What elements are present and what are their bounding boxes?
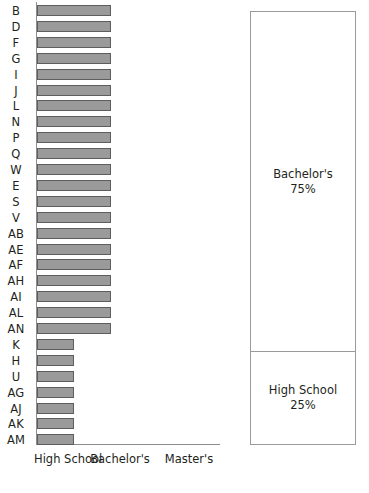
bar-rect	[37, 323, 111, 334]
bar-rect	[37, 21, 111, 32]
summary-segment-high-school: High School 25%	[251, 351, 355, 444]
bar-rect	[37, 116, 111, 127]
bar-row: AM	[0, 432, 240, 448]
summary-segment-bachelors-label: Bachelor's	[273, 167, 333, 182]
bar-row: J	[0, 83, 240, 99]
bar-category-label: L	[0, 98, 32, 114]
bar-rect	[37, 418, 74, 429]
bar-category-label: AH	[0, 273, 32, 289]
bar-rect	[37, 148, 111, 159]
bar-rect	[37, 85, 111, 96]
bar-rect	[37, 371, 74, 382]
bar-row: AN	[0, 321, 240, 337]
bar-rect	[37, 37, 111, 48]
bar-row: H	[0, 353, 240, 369]
bar-category-label: J	[0, 83, 32, 99]
bar-category-label: H	[0, 353, 32, 369]
bar-category-label: I	[0, 67, 32, 83]
bar-category-label: K	[0, 337, 32, 353]
bar-category-label: N	[0, 114, 32, 130]
bar-rect	[37, 164, 111, 175]
bar-row: G	[0, 51, 240, 67]
bar-rect	[37, 5, 111, 16]
bar-row: AE	[0, 242, 240, 258]
chart-figure: BDFGIJLNPQWESVABAEAFAHAIALANKHUAGAJAKAM …	[0, 0, 369, 493]
summary-segment-bachelors-percent: 75%	[290, 182, 316, 197]
bar-row: P	[0, 130, 240, 146]
bar-rect	[37, 100, 111, 111]
bar-category-label: D	[0, 19, 32, 35]
bar-category-label: AJ	[0, 401, 32, 417]
bar-category-label: AI	[0, 289, 32, 305]
bar-rect	[37, 228, 111, 239]
bar-rect	[37, 259, 111, 270]
bar-category-label: F	[0, 35, 32, 51]
bar-category-label: B	[0, 3, 32, 19]
bar-row: AK	[0, 416, 240, 432]
bar-category-label: E	[0, 178, 32, 194]
bar-row: N	[0, 114, 240, 130]
summary-segment-high-school-percent: 25%	[290, 398, 316, 413]
bar-rect	[37, 53, 111, 64]
bar-row: F	[0, 35, 240, 51]
bar-row: D	[0, 19, 240, 35]
bar-rect	[37, 180, 111, 191]
x-tick-label-masters: Master's	[154, 452, 224, 466]
bar-row: AL	[0, 305, 240, 321]
bar-chart-panel: BDFGIJLNPQWESVABAEAFAHAIALANKHUAGAJAKAM …	[0, 0, 240, 493]
bar-row: AB	[0, 226, 240, 242]
bar-row: AJ	[0, 401, 240, 417]
bar-row: AI	[0, 289, 240, 305]
bar-row: AG	[0, 385, 240, 401]
bar-row: Q	[0, 146, 240, 162]
bar-row: K	[0, 337, 240, 353]
bar-rect	[37, 291, 111, 302]
bar-category-label: V	[0, 210, 32, 226]
bar-rect	[37, 307, 111, 318]
x-axis-tick-labels: High School Bachelor's Master's	[36, 452, 236, 492]
bar-row: E	[0, 178, 240, 194]
bar-category-label: AE	[0, 242, 32, 258]
bar-row: AF	[0, 257, 240, 273]
bar-row: U	[0, 369, 240, 385]
bar-category-label: W	[0, 162, 32, 178]
bar-rect	[37, 387, 74, 398]
bar-category-label: AL	[0, 305, 32, 321]
bar-rect	[37, 355, 74, 366]
bar-rect	[37, 69, 111, 80]
bar-rect	[37, 339, 74, 350]
bar-category-label: U	[0, 369, 32, 385]
bar-rect	[37, 434, 74, 445]
bar-category-label: AB	[0, 226, 32, 242]
bar-row: B	[0, 3, 240, 19]
bar-row: L	[0, 98, 240, 114]
x-tick-label-bachelors: Bachelor's	[80, 452, 160, 466]
bar-rect	[37, 212, 111, 223]
bar-category-label: AM	[0, 432, 32, 448]
bar-row: W	[0, 162, 240, 178]
bar-row: V	[0, 210, 240, 226]
bar-category-label: G	[0, 51, 32, 67]
bar-row: AH	[0, 273, 240, 289]
bar-rect	[37, 196, 111, 207]
bar-category-label: S	[0, 194, 32, 210]
bar-rect	[37, 132, 111, 143]
bar-category-label: Q	[0, 146, 32, 162]
bar-rect	[37, 244, 111, 255]
summary-segment-high-school-label: High School	[269, 383, 337, 398]
summary-stacked-panel: Bachelor's 75% High School 25%	[250, 11, 356, 445]
bar-category-label: AK	[0, 416, 32, 432]
bar-rect	[37, 275, 111, 286]
bar-row: S	[0, 194, 240, 210]
bar-row: I	[0, 67, 240, 83]
bar-category-label: AF	[0, 257, 32, 273]
bar-category-label: AG	[0, 385, 32, 401]
bar-category-label: P	[0, 130, 32, 146]
bar-rect	[37, 403, 74, 414]
bar-category-label: AN	[0, 321, 32, 337]
summary-segment-bachelors: Bachelor's 75%	[251, 12, 355, 351]
